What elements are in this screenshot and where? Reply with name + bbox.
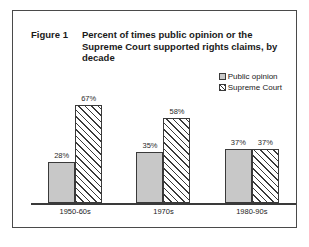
bar-group-2: 37% 37% — [225, 93, 279, 203]
solid-gray-swatch-icon — [219, 73, 226, 80]
bar-rect — [136, 152, 163, 203]
bar-public-opinion-0: 28% — [48, 93, 75, 203]
bar-value-label: 28% — [54, 152, 69, 160]
x-axis-category-labels: 1950-60s 1970s 1980-90s — [31, 207, 296, 216]
bar-rect — [225, 149, 252, 203]
figure-title-block: Figure 1 Percent of times public opinion… — [31, 29, 281, 64]
bar-groups: 28% 67% 35% 58% — [31, 93, 296, 203]
bar-rect — [75, 105, 102, 203]
legend-label-supreme-court: Supreme Court — [228, 83, 282, 92]
bar-public-opinion-1: 35% — [136, 93, 163, 203]
bar-value-label: 58% — [169, 108, 184, 116]
bar-rect — [163, 118, 190, 203]
legend-label-public-opinion: Public opinion — [228, 72, 278, 81]
bar-rect — [252, 149, 279, 203]
figure-frame: Figure 1 Percent of times public opinion… — [12, 10, 297, 228]
bar-value-label: 37% — [258, 139, 273, 147]
x-axis-line — [31, 203, 296, 205]
bar-group-1: 35% 58% — [136, 93, 190, 203]
legend-item-supreme-court: Supreme Court — [219, 82, 282, 92]
plot-area: 28% 67% 35% 58% — [31, 93, 296, 205]
category-label-0: 1950-60s — [48, 207, 102, 216]
legend-item-public-opinion: Public opinion — [219, 71, 282, 81]
figure-number-label: Figure 1 — [31, 29, 68, 41]
bar-value-label: 37% — [231, 139, 246, 147]
bar-supreme-court-0: 67% — [75, 93, 102, 203]
hatched-swatch-icon — [219, 84, 226, 91]
category-label-1: 1970s — [136, 207, 190, 216]
bar-value-label: 67% — [81, 95, 96, 103]
bar-value-label: 35% — [142, 142, 157, 150]
bar-group-0: 28% 67% — [48, 93, 102, 203]
bar-public-opinion-2: 37% — [225, 93, 252, 203]
figure-title-text: Percent of times public opinion or the S… — [82, 29, 278, 64]
bar-supreme-court-1: 58% — [163, 93, 190, 203]
category-label-2: 1980-90s — [225, 207, 279, 216]
chart-legend: Public opinion Supreme Court — [219, 71, 282, 92]
bar-rect — [48, 162, 75, 203]
bar-supreme-court-2: 37% — [252, 93, 279, 203]
